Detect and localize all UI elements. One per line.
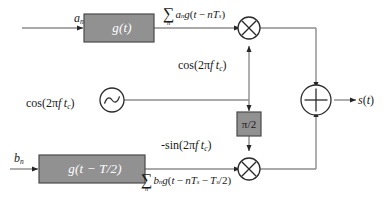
carrier-label-oscillator: cos(2πf tc) — [26, 97, 74, 111]
input-label-a-n: an — [74, 12, 84, 26]
expression-top-sum: ∑ n ang(t − nTs) — [163, 6, 225, 25]
block-phase-shift[interactable] — [237, 112, 261, 136]
node-mixer-q[interactable] — [238, 158, 260, 180]
node-mixer-i[interactable] — [238, 17, 260, 39]
block-pulse-shape-q[interactable] — [39, 155, 145, 183]
node-oscillator[interactable] — [100, 88, 124, 112]
carrier-label-cos-upper: cos(2πf tc) — [178, 59, 226, 73]
expression-bottom-sum: ∑ n bng(t − nTs − Ts/2) — [141, 172, 231, 191]
sigma-symbol-bottom: ∑ n — [141, 173, 152, 192]
block-pulse-shape-i[interactable] — [84, 14, 154, 42]
output-label-s-t: s(t) — [358, 94, 374, 106]
input-label-b-n: bn — [14, 152, 24, 166]
carrier-label-neg-sin: -sin(2πf tc) — [161, 139, 211, 153]
sigma-symbol-top: ∑ n — [163, 7, 174, 26]
block-diagram-canvas: an bn g(t) g(t − T/2) π/2 ∑ n ang(t − nT… — [0, 0, 389, 201]
node-summer[interactable] — [301, 85, 331, 115]
